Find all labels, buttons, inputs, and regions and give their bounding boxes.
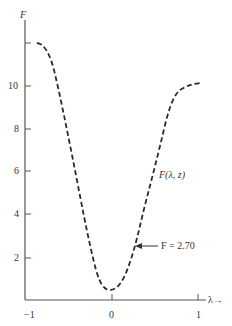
x-ticks [112,294,198,300]
svg-text:1: 1 [196,309,201,320]
chart: F 10 8 6 4 2 −1 0 1 λ→ F(λ, z) F = 2.70 [0,0,232,326]
x-tick-labels: −1 0 1 [24,309,201,320]
svg-text:2: 2 [14,252,19,263]
curve-label: F(λ, z) [158,169,186,181]
svg-text:4: 4 [14,208,19,219]
svg-text:−1: −1 [24,309,35,320]
arrowhead-icon [135,243,142,249]
y-axis-label: F [19,9,27,20]
svg-text:6: 6 [14,165,19,176]
svg-text:10: 10 [8,80,18,91]
x-axis-label: λ→ [208,294,223,305]
svg-text:8: 8 [14,123,19,134]
annotation-label: F = 2.70 [161,240,195,251]
svg-text:0: 0 [109,309,114,320]
y-tick-labels: 10 8 6 4 2 [8,80,19,263]
curve-F-lambda-z [37,43,200,290]
y-ticks [25,43,31,258]
